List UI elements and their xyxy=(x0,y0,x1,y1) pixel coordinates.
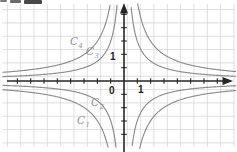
curve-label-c4: C4 xyxy=(70,36,83,50)
curve-c3 xyxy=(3,5,236,145)
curve-c2 xyxy=(3,8,236,148)
cropped-text-artifact xyxy=(10,0,21,3)
origin-label: 0 xyxy=(109,86,115,96)
y-axis-tick-label-1: 1 xyxy=(110,52,116,62)
curve-label-c2: C2 xyxy=(91,97,104,111)
curve-c4 xyxy=(3,5,236,148)
x-axis-tick-label-1: 1 xyxy=(138,85,144,95)
hyperbola-chart xyxy=(0,0,237,152)
x-axis-arrowhead xyxy=(223,77,234,85)
cropped-text-artifact xyxy=(0,0,7,2)
curve-c1 xyxy=(3,4,236,147)
cropped-text-artifact xyxy=(24,0,42,4)
curve-label-c1: C1 xyxy=(77,115,90,129)
y-axis-arrowhead xyxy=(120,3,128,14)
figure-canvas: 0 1 1 C1C2C3C4 xyxy=(0,0,237,152)
curve-label-c3: C3 xyxy=(86,46,99,60)
